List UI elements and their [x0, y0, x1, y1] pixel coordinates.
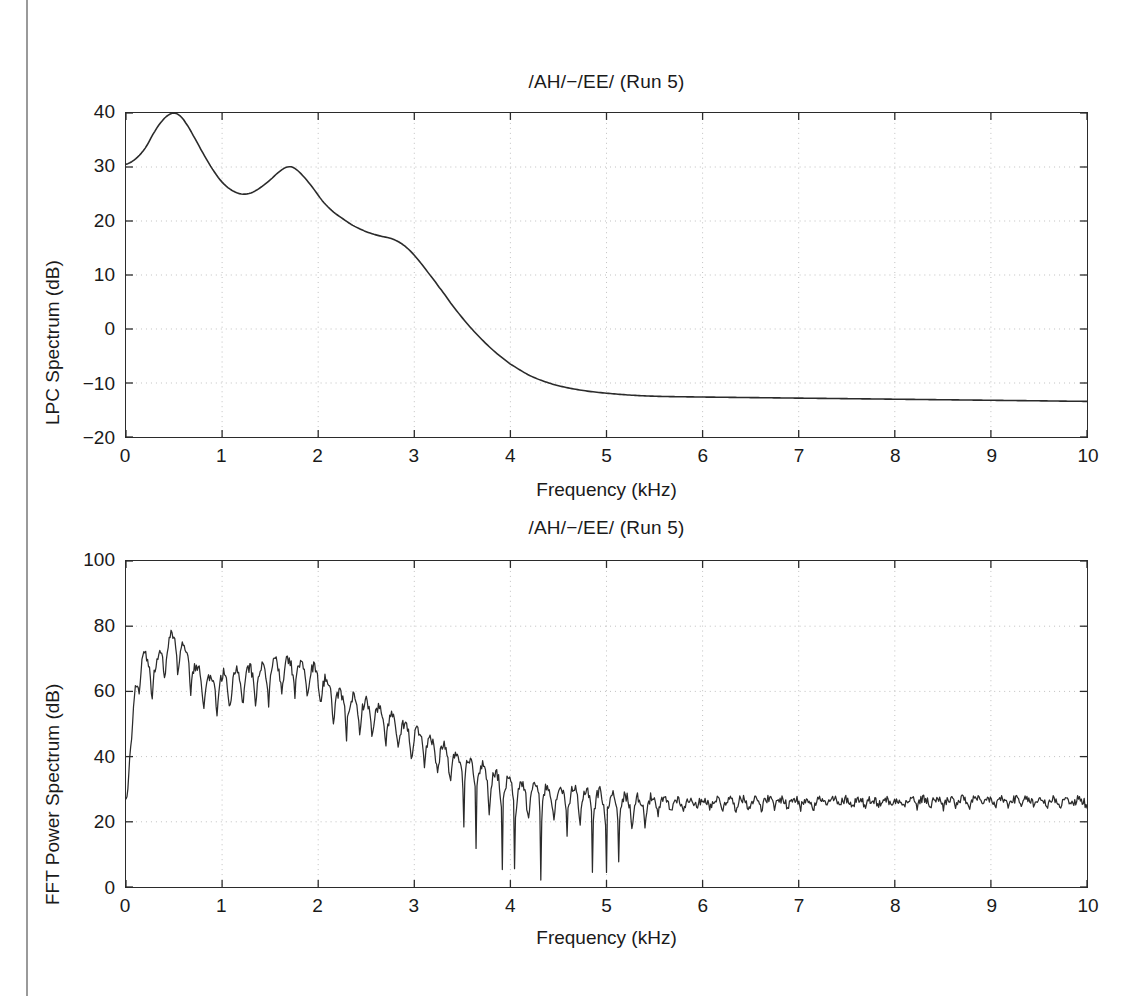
- x-tick-label: 2: [312, 445, 323, 467]
- y-tick-label: 0: [59, 877, 115, 899]
- y-tick-label: 40: [59, 746, 115, 768]
- y-tick-label: 30: [59, 155, 115, 177]
- fft-x-axis-label: Frequency (kHz): [125, 927, 1088, 949]
- x-tick-label: 4: [505, 445, 516, 467]
- x-tick-label: 7: [794, 895, 805, 917]
- lpc-tick-marks: [126, 113, 1087, 437]
- fft-plot-title: /AH/−/EE/ (Run 5): [125, 517, 1088, 539]
- y-tick-label: −20: [59, 427, 115, 449]
- y-tick-label: 100: [59, 549, 115, 571]
- x-tick-label: 7: [794, 445, 805, 467]
- fft-plot-area: [125, 560, 1088, 888]
- x-tick-label: 5: [601, 445, 612, 467]
- x-tick-label: 0: [120, 445, 131, 467]
- lpc-plot-svg: [126, 113, 1087, 437]
- y-tick-label: 40: [59, 101, 115, 123]
- y-tick-label: 20: [59, 811, 115, 833]
- x-tick-label: 1: [216, 895, 227, 917]
- x-tick-label: 0: [120, 895, 131, 917]
- lpc-spectrum-figure: /AH/−/EE/ (Run 5) LPC Spectrum (dB) −20−…: [0, 55, 1140, 495]
- x-tick-label: 8: [890, 445, 901, 467]
- figure-page: /AH/−/EE/ (Run 5) LPC Spectrum (dB) −20−…: [0, 0, 1140, 996]
- x-tick-label: 3: [409, 895, 420, 917]
- x-tick-label: 6: [698, 895, 709, 917]
- fft-y-axis-label: FFT Power Spectrum (dB): [42, 684, 64, 905]
- x-tick-label: 5: [601, 895, 612, 917]
- y-tick-label: 10: [59, 264, 115, 286]
- fft-spectrum-figure: /AH/−/EE/ (Run 5) FFT Power Spectrum (dB…: [0, 505, 1140, 960]
- lpc-grid-lines: [126, 113, 1087, 437]
- x-tick-label: 10: [1077, 895, 1098, 917]
- fft-plot-svg: [126, 561, 1087, 887]
- x-tick-label: 8: [890, 895, 901, 917]
- y-tick-label: 20: [59, 210, 115, 232]
- x-tick-label: 2: [312, 895, 323, 917]
- lpc-plot-area: [125, 112, 1088, 438]
- x-tick-label: 3: [409, 445, 420, 467]
- x-tick-label: 10: [1077, 445, 1098, 467]
- x-tick-label: 9: [986, 445, 997, 467]
- y-tick-label: 60: [59, 680, 115, 702]
- x-tick-label: 6: [698, 445, 709, 467]
- y-tick-label: 80: [59, 615, 115, 637]
- lpc-plot-title: /AH/−/EE/ (Run 5): [125, 71, 1088, 93]
- x-tick-label: 9: [986, 895, 997, 917]
- x-tick-label: 1: [216, 445, 227, 467]
- lpc-x-axis-label: Frequency (kHz): [125, 479, 1088, 501]
- y-tick-label: −10: [59, 373, 115, 395]
- x-tick-label: 4: [505, 895, 516, 917]
- y-tick-label: 0: [59, 318, 115, 340]
